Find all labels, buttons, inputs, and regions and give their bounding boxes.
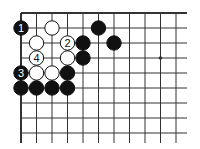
stone-circle bbox=[45, 21, 59, 35]
stone-circle bbox=[14, 81, 28, 95]
white-stone bbox=[45, 66, 59, 80]
black-stone bbox=[76, 51, 90, 65]
black-stone bbox=[45, 81, 59, 95]
black-stone bbox=[60, 66, 74, 80]
black-stone bbox=[60, 81, 74, 95]
black-stone: 3 bbox=[14, 66, 28, 80]
stone-circle bbox=[76, 36, 90, 50]
black-stone bbox=[14, 81, 28, 95]
black-stone bbox=[107, 36, 121, 50]
white-stone bbox=[45, 21, 59, 35]
stone-circle bbox=[60, 81, 74, 95]
white-stone bbox=[29, 66, 43, 80]
move-number-label: 3 bbox=[18, 67, 24, 79]
white-stone bbox=[60, 51, 74, 65]
stone-circle bbox=[60, 51, 74, 65]
stone-circle bbox=[29, 36, 43, 50]
white-stone: 4 bbox=[29, 51, 43, 65]
black-stone bbox=[76, 36, 90, 50]
black-stone: 1 bbox=[14, 21, 28, 35]
white-stone: 2 bbox=[60, 36, 74, 50]
star-point bbox=[159, 56, 163, 60]
star-points bbox=[159, 56, 163, 60]
white-stone bbox=[29, 36, 43, 50]
go-board: 1243 bbox=[0, 0, 200, 149]
black-stone bbox=[29, 81, 43, 95]
stone-circle bbox=[76, 51, 90, 65]
stone-circle bbox=[29, 66, 43, 80]
move-number-label: 2 bbox=[64, 37, 70, 49]
stone-circle bbox=[45, 81, 59, 95]
move-number-label: 1 bbox=[18, 22, 24, 34]
stone-circle bbox=[45, 66, 59, 80]
move-number-label: 4 bbox=[33, 52, 39, 64]
stone-circle bbox=[107, 36, 121, 50]
stone-circle bbox=[60, 66, 74, 80]
stone-circle bbox=[91, 21, 105, 35]
black-stone bbox=[91, 21, 105, 35]
stone-circle bbox=[29, 81, 43, 95]
